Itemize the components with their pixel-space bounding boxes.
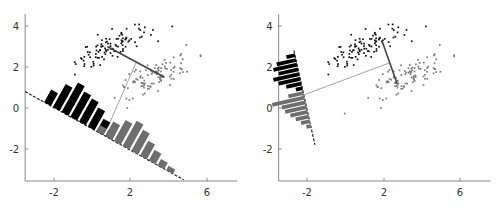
class2-point xyxy=(382,99,384,101)
class1-point xyxy=(359,49,361,51)
class1-point xyxy=(376,50,378,52)
class2-point xyxy=(344,113,346,115)
class1-point xyxy=(101,39,103,41)
class2-point xyxy=(397,87,399,89)
class1-point xyxy=(74,61,76,63)
class1-point xyxy=(141,36,143,38)
class1-point xyxy=(92,61,94,63)
class2-point xyxy=(151,83,153,85)
class2-point xyxy=(144,93,146,95)
class1-point xyxy=(101,43,103,45)
class1-point xyxy=(334,58,336,60)
class1-point xyxy=(359,38,361,40)
y-tick-label: 4 xyxy=(266,21,272,32)
class2-point xyxy=(377,86,379,88)
class2-point xyxy=(419,62,421,64)
class2-point xyxy=(126,107,128,109)
class2-point xyxy=(411,69,413,71)
class2-point xyxy=(420,68,422,70)
class1-point xyxy=(340,46,342,48)
class1-point xyxy=(368,44,370,46)
class1-point xyxy=(117,38,119,40)
class2-point xyxy=(132,81,134,83)
class1-point xyxy=(393,29,395,31)
class1-point xyxy=(101,56,103,58)
class2-point xyxy=(182,71,184,73)
class1-point xyxy=(125,46,127,48)
class1-point xyxy=(121,32,123,34)
class2-point xyxy=(382,73,384,75)
class2-point xyxy=(139,71,141,73)
class1-point xyxy=(397,32,399,34)
class1-point xyxy=(388,41,390,43)
class2-point xyxy=(143,80,145,82)
class1-point xyxy=(370,56,372,58)
class2-point xyxy=(397,80,399,82)
class2-point xyxy=(397,83,399,85)
class1-point xyxy=(406,29,408,31)
class2-point xyxy=(385,98,387,100)
left-panel: -226420-2 xyxy=(9,14,237,198)
class1-point xyxy=(389,45,391,47)
class1-point xyxy=(117,56,119,58)
class1-point xyxy=(374,39,376,41)
histograms xyxy=(272,53,311,128)
class2-point xyxy=(413,75,415,77)
class1-point xyxy=(122,48,124,50)
class2-point xyxy=(164,66,166,68)
class1-point xyxy=(126,28,128,30)
class2-point xyxy=(122,84,124,86)
class1-point xyxy=(109,38,111,40)
class2-point xyxy=(418,68,420,70)
class1-point xyxy=(103,59,105,61)
class1-point xyxy=(337,56,339,58)
class2-point xyxy=(182,58,184,60)
class2-point xyxy=(390,79,392,81)
class1-point xyxy=(75,63,77,65)
right-panel: -226420-2 xyxy=(263,14,491,198)
class2-point xyxy=(173,56,175,58)
class1-point xyxy=(105,49,107,51)
class2-point xyxy=(408,72,410,74)
class1-point xyxy=(371,46,373,48)
class1-point xyxy=(373,51,375,53)
class1-point xyxy=(391,28,393,30)
class2-point xyxy=(397,93,399,95)
class2-point xyxy=(400,74,402,76)
class1-point xyxy=(120,43,122,45)
class2-point xyxy=(406,83,408,85)
class2-point xyxy=(143,84,145,86)
class2-point xyxy=(415,75,417,77)
class2-point xyxy=(148,88,150,90)
y-tick-label: -2 xyxy=(9,144,19,155)
class2-point xyxy=(410,73,412,75)
class1-point xyxy=(134,41,136,43)
x-tick-label: -2 xyxy=(49,187,59,198)
class2-point xyxy=(379,98,381,100)
class1-point xyxy=(404,34,406,36)
class2-point xyxy=(426,71,428,73)
class2-point xyxy=(132,98,134,100)
class1-point xyxy=(104,47,106,49)
class2-point xyxy=(380,107,382,109)
class1-point xyxy=(354,43,356,45)
class2-point xyxy=(414,67,416,69)
class1-point xyxy=(126,37,128,39)
class2-point xyxy=(158,81,160,83)
class2-point xyxy=(400,88,402,90)
class1-point xyxy=(376,48,378,50)
class2-point xyxy=(405,83,407,85)
class1-point xyxy=(365,48,367,50)
class2-point xyxy=(180,62,182,64)
class1-point xyxy=(355,45,357,47)
class2-point xyxy=(173,67,175,69)
class2-point xyxy=(147,64,149,66)
class2-point xyxy=(159,78,161,80)
class1-point xyxy=(139,29,141,31)
class2-point xyxy=(453,54,455,56)
class2-point xyxy=(426,67,428,69)
class1-point xyxy=(99,49,101,51)
class1-point xyxy=(375,37,377,39)
class1-point xyxy=(125,39,127,41)
class1-point xyxy=(138,28,140,30)
